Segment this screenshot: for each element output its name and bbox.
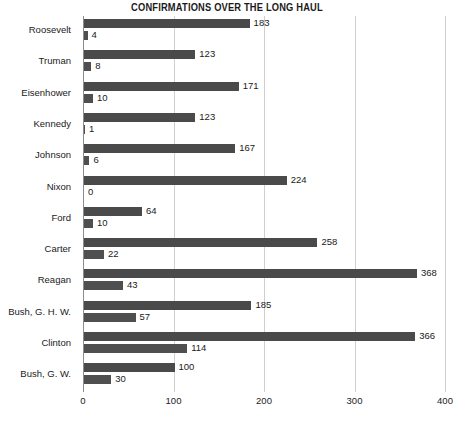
bar-row: Bush, G. W.10030: [83, 360, 445, 391]
bar-value-secondary: 22: [108, 249, 119, 258]
x-tick-label-200: 200: [256, 395, 272, 406]
category-label: Roosevelt: [0, 24, 71, 35]
bar-secondary: [84, 344, 187, 353]
bar-row: Nixon2240: [83, 173, 445, 204]
bar-secondary: [84, 375, 111, 384]
bar-secondary: [84, 313, 136, 322]
bar-row: Bush, G. H. W.18557: [83, 298, 445, 329]
bar-secondary: [84, 125, 85, 134]
bar-row: Truman1238: [83, 47, 445, 78]
category-label: Reagan: [0, 274, 71, 285]
bar-value-secondary: 30: [115, 374, 126, 383]
bar-value-primary: 224: [291, 175, 307, 184]
bar-value-secondary: 4: [92, 30, 97, 39]
bar-value-primary: 171: [243, 81, 259, 90]
bar-value-secondary: 114: [191, 343, 206, 352]
bar-primary: [84, 176, 287, 185]
category-label: Bush, G. W.: [0, 368, 71, 379]
bar-row: Clinton366114: [83, 329, 445, 360]
bar-row: Reagan36843: [83, 266, 445, 297]
bar-value-primary: 167: [239, 143, 255, 152]
bar-value-primary: 258: [321, 237, 337, 246]
category-label: Truman: [0, 55, 71, 66]
bar-value-secondary: 57: [140, 312, 151, 321]
bar-value-secondary: 0: [88, 187, 93, 196]
bar-primary: [84, 144, 235, 153]
bar-value-primary: 366: [419, 331, 435, 340]
bar-value-primary: 64: [146, 206, 157, 215]
bar-value-secondary: 10: [97, 93, 108, 102]
bar-secondary: [84, 62, 91, 71]
bar-value-primary: 123: [199, 49, 215, 58]
bar-row: Kennedy1231: [83, 110, 445, 141]
plot-area: 0100200300400 Roosevelt1834Truman1238Eis…: [83, 16, 445, 392]
bar-row: Johnson1676: [83, 141, 445, 172]
bar-primary: [84, 207, 142, 216]
bar-value-primary: 185: [255, 300, 271, 309]
bar-primary: [84, 238, 317, 247]
bar-value-secondary: 6: [93, 155, 98, 164]
bar-primary: [84, 113, 195, 122]
gridline-400: [445, 16, 446, 392]
category-label: Bush, G. H. W.: [0, 306, 71, 317]
bar-secondary: [84, 31, 88, 40]
x-tick-label-100: 100: [166, 395, 182, 406]
category-label: Johnson: [0, 149, 71, 160]
bar-primary: [84, 332, 415, 341]
category-label: Eisenhower: [0, 87, 71, 98]
bar-secondary: [84, 219, 93, 228]
x-tick-label-0: 0: [80, 395, 85, 406]
bar-primary: [84, 363, 175, 372]
category-label: Carter: [0, 243, 71, 254]
x-tick-label-400: 400: [437, 395, 453, 406]
bar-secondary: [84, 156, 89, 165]
bar-value-secondary: 1: [89, 124, 94, 133]
category-label: Clinton: [0, 337, 71, 348]
category-label: Kennedy: [0, 118, 71, 129]
bar-primary: [84, 301, 251, 310]
category-label: Nixon: [0, 181, 71, 192]
bar-value-secondary: 8: [95, 61, 100, 70]
bar-value-secondary: 43: [127, 280, 138, 289]
bar-value-primary: 183: [254, 18, 270, 27]
bar-value-primary: 123: [199, 112, 215, 121]
bar-value-primary: 100: [179, 362, 195, 371]
bar-row: Roosevelt1834: [83, 16, 445, 47]
bar-row: Eisenhower17110: [83, 79, 445, 110]
bar-row: Ford6410: [83, 204, 445, 235]
bar-secondary: [84, 281, 123, 290]
bar-value-secondary: 10: [97, 218, 108, 227]
bar-row: Carter25822: [83, 235, 445, 266]
category-label: Ford: [0, 212, 71, 223]
bar-primary: [84, 19, 250, 28]
x-tick-label-300: 300: [347, 395, 363, 406]
bar-primary: [84, 269, 417, 278]
bar-primary: [84, 82, 239, 91]
chart-title: CONFIRMATIONS OVER THE LONG HAUL: [16, 2, 438, 13]
bar-value-primary: 368: [421, 268, 437, 277]
chart-page: CONFIRMATIONS OVER THE LONG HAUL 0100200…: [0, 0, 454, 421]
bar-secondary: [84, 94, 93, 103]
bar-primary: [84, 50, 195, 59]
bar-secondary: [84, 250, 104, 259]
